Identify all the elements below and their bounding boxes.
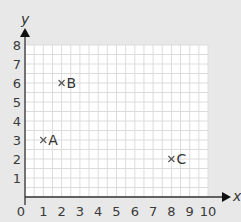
y-tick-label: 4 <box>13 114 21 129</box>
coordinate-grid-chart: 012345678910 12345678 ABC x y <box>0 0 241 222</box>
y-axis-arrow-icon <box>20 28 30 37</box>
y-tick-label: 3 <box>13 133 21 148</box>
x-tick-label: 0 <box>17 204 25 219</box>
gridlines <box>25 45 208 197</box>
x-tick-label: 5 <box>112 204 120 219</box>
x-tick-labels: 012345678910 <box>17 204 216 219</box>
point-label: B <box>67 75 77 91</box>
x-tick-label: 6 <box>131 204 139 219</box>
x-axis-label: x <box>232 188 241 204</box>
y-tick-label: 1 <box>13 171 21 186</box>
x-tick-label: 8 <box>167 204 175 219</box>
y-tick-label: 2 <box>13 152 21 167</box>
x-tick-label: 10 <box>200 204 217 219</box>
y-tick-label: 5 <box>13 95 21 110</box>
y-tick-label: 7 <box>13 57 21 72</box>
y-tick-label: 6 <box>13 76 21 91</box>
x-tick-label: 7 <box>149 204 157 219</box>
point-label: C <box>176 151 186 167</box>
x-tick-label: 3 <box>76 204 84 219</box>
y-tick-label: 8 <box>13 38 21 53</box>
x-tick-label: 2 <box>57 204 65 219</box>
x-tick-label: 4 <box>94 204 102 219</box>
x-tick-label: 9 <box>186 204 194 219</box>
y-axis-label: y <box>20 11 30 27</box>
point-label: A <box>48 132 58 148</box>
x-axis-arrow-icon <box>222 192 231 202</box>
y-tick-labels: 12345678 <box>13 38 21 186</box>
x-tick-label: 1 <box>39 204 47 219</box>
